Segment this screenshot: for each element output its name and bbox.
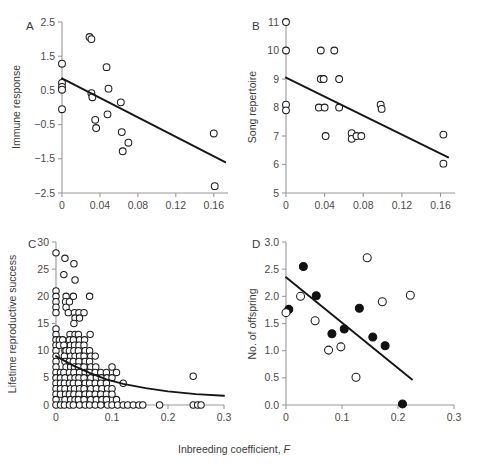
data-point — [98, 402, 104, 408]
data-point — [65, 309, 71, 315]
data-point — [355, 304, 363, 312]
data-point — [59, 60, 66, 67]
x-tick-label: 0.04 — [314, 199, 335, 211]
x-tick-label: 0.2 — [391, 411, 406, 423]
y-tick-label: 5 — [273, 187, 279, 199]
x-tick-label: 0.08 — [128, 199, 149, 211]
data-point — [125, 139, 132, 146]
y-tick-label: 7 — [273, 130, 279, 142]
data-point — [93, 125, 100, 132]
data-point — [71, 320, 77, 326]
y-tick-label: 15 — [37, 317, 49, 329]
data-point — [378, 106, 385, 113]
data-point — [113, 369, 119, 375]
x-tick-label: 0 — [283, 199, 289, 211]
data-point — [87, 331, 93, 337]
y-axis-label: Song repertoire — [246, 71, 258, 144]
data-point — [325, 346, 333, 354]
data-point — [311, 317, 319, 325]
x-tick-label: 0.12 — [166, 199, 187, 211]
data-point — [440, 131, 447, 138]
y-tick-label: −2.5 — [34, 187, 55, 199]
x-tick-label: 0.1 — [105, 411, 120, 423]
x-tick-label: 0.1 — [335, 411, 350, 423]
data-point — [117, 99, 124, 106]
y-axis-label: Lifetime reproductive success — [6, 255, 18, 393]
data-point — [61, 271, 67, 277]
data-point — [140, 402, 146, 408]
data-point — [59, 106, 66, 113]
data-point — [358, 133, 365, 140]
y-tick-label: 10 — [37, 344, 49, 356]
y-tick-label: 3.0 — [264, 236, 279, 248]
y-tick-label: 6 — [273, 158, 279, 170]
data-point — [86, 293, 92, 299]
data-point — [211, 183, 218, 190]
data-point — [109, 391, 115, 397]
regression-line — [286, 277, 412, 379]
data-point — [337, 343, 345, 351]
panel-letter: B — [252, 20, 260, 32]
data-point — [92, 116, 99, 123]
data-point — [283, 107, 290, 114]
x-tick-label: 0.16 — [204, 199, 225, 211]
panel-letter: D — [252, 238, 260, 250]
data-point — [317, 47, 324, 54]
data-point — [363, 254, 371, 262]
data-point — [76, 315, 82, 321]
y-tick-label: 0.0 — [264, 399, 279, 411]
y-tick-label: 2.5 — [264, 263, 279, 275]
y-axis-label: No. of offspring — [246, 288, 258, 359]
shared-x-axis-label-text: Inbreeding coefficient, — [178, 443, 283, 455]
y-tick-label: 2.0 — [264, 290, 279, 302]
data-point — [105, 85, 112, 92]
data-point — [53, 309, 59, 315]
y-axis-label: Immune response — [10, 65, 22, 149]
x-tick-label: 0.3 — [447, 411, 462, 423]
y-tick-label: 25 — [37, 263, 49, 275]
data-point — [369, 333, 377, 341]
panel-a-plot: −2.5−1.5−0.50.51.52.500.040.080.120.16AI… — [0, 0, 240, 228]
data-point — [119, 148, 126, 155]
data-point — [299, 262, 307, 270]
data-point — [283, 47, 290, 54]
data-point — [81, 309, 87, 315]
data-point — [88, 36, 95, 43]
y-tick-label: 9 — [273, 73, 279, 85]
panel-c: 05101520253000.10.20.3CLifetime reproduc… — [0, 228, 240, 440]
data-point — [381, 342, 389, 350]
panel-d-plot: 0.00.51.01.52.02.53.000.10.20.3DNo. of o… — [240, 228, 480, 440]
x-tick-label: 0.08 — [353, 199, 374, 211]
data-point — [92, 353, 98, 359]
data-point — [322, 133, 329, 140]
data-point — [378, 298, 386, 306]
shared-x-axis-label: Inbreeding coefficient, F — [178, 443, 290, 455]
panel-letter: C — [28, 238, 36, 250]
panel-a: −2.5−1.5−0.50.51.52.500.040.080.120.16AI… — [0, 0, 240, 228]
data-point — [352, 373, 360, 381]
data-point — [104, 111, 111, 118]
data-point — [398, 400, 406, 408]
shared-x-axis-label-symbol: F — [283, 443, 289, 455]
data-point — [53, 250, 59, 256]
y-tick-label: 30 — [37, 236, 49, 248]
data-point — [336, 76, 343, 83]
y-tick-label: 20 — [37, 290, 49, 302]
data-point — [71, 261, 77, 267]
x-tick-label: 0.04 — [90, 199, 111, 211]
data-point — [118, 129, 125, 136]
y-tick-label: 2.5 — [40, 16, 55, 28]
data-point — [72, 277, 78, 283]
y-tick-label: 1.5 — [264, 317, 279, 329]
data-point — [109, 364, 115, 370]
data-point — [210, 130, 217, 137]
x-tick-label: 0 — [283, 411, 289, 423]
panel-letter: A — [26, 20, 34, 32]
data-point — [190, 373, 196, 379]
y-tick-label: 5 — [43, 371, 49, 383]
data-point — [62, 255, 68, 261]
regression-line — [62, 78, 225, 162]
x-tick-label: 0.12 — [392, 199, 413, 211]
data-point — [283, 19, 290, 26]
data-point — [328, 330, 336, 338]
